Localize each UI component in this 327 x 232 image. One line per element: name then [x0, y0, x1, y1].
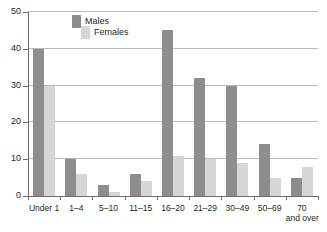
y-axis-label: 0 [0, 191, 21, 200]
plot-area [28, 12, 318, 196]
bar-males [194, 78, 205, 196]
x-axis-label-line: 21–29 [189, 203, 221, 213]
bar-females [173, 156, 184, 196]
x-axis-label: 30–49 [221, 203, 253, 213]
x-axis-tick [92, 196, 93, 200]
x-axis-label: 1–4 [60, 203, 92, 213]
x-axis-label-line: 50–69 [254, 203, 286, 213]
x-axis-tick [125, 196, 126, 200]
y-axis-tick [23, 49, 28, 50]
bar-males [226, 86, 237, 196]
bar-males [33, 49, 44, 196]
y-axis-tick [23, 86, 28, 87]
x-axis-label-line: 16–20 [157, 203, 189, 213]
x-axis-label: 5–10 [92, 203, 124, 213]
y-axis-label: 50 [0, 7, 21, 16]
x-axis-label-line: 30–49 [221, 203, 253, 213]
gridline [28, 85, 318, 86]
gridline [28, 48, 318, 49]
y-axis-line [28, 12, 29, 197]
x-axis-tick [286, 196, 287, 200]
bar-males [65, 159, 76, 196]
x-axis-tick [254, 196, 255, 200]
bar-males [130, 174, 141, 196]
y-axis-label: 20 [0, 117, 21, 126]
x-axis-label: 50–69 [254, 203, 286, 213]
x-axis-label-line: 11–15 [125, 203, 157, 213]
bar-females [205, 159, 216, 196]
bar-males [98, 185, 109, 196]
x-axis-label: 11–15 [125, 203, 157, 213]
y-axis-tick [23, 159, 28, 160]
gridline [28, 121, 318, 122]
bar-males [291, 178, 302, 196]
legend-label-males: Males [85, 16, 109, 26]
x-axis-tick [28, 196, 29, 200]
y-axis-tick [23, 12, 28, 13]
bar-females [76, 174, 87, 196]
bar-males [162, 30, 173, 196]
x-axis-tick [189, 196, 190, 200]
x-axis-label-line: 5–10 [92, 203, 124, 213]
x-axis-label: 21–29 [189, 203, 221, 213]
x-axis-tick [60, 196, 61, 200]
x-axis-label: 16–20 [157, 203, 189, 213]
bar-females [44, 86, 55, 196]
x-axis-tick [221, 196, 222, 200]
x-axis-label: 70and over [286, 203, 318, 223]
y-axis-label: 30 [0, 81, 21, 90]
legend-swatch-females-icon [81, 26, 90, 39]
x-axis-label-line: 1–4 [60, 203, 92, 213]
bar-females [237, 163, 248, 196]
legend-swatch-males-icon [72, 15, 81, 28]
x-axis-tick [157, 196, 158, 200]
bar-females [141, 181, 152, 196]
bar-chart: 01020304050 Under 11–45–1011–1516–2021–2… [0, 0, 327, 232]
x-axis-label-line: and over [286, 213, 318, 223]
x-axis-tick [318, 196, 319, 200]
y-axis-label: 10 [0, 154, 21, 163]
bar-females [302, 167, 313, 196]
gridline [28, 11, 318, 12]
bar-females [270, 178, 281, 196]
x-axis-label-line: Under 1 [28, 203, 60, 213]
bar-males [259, 144, 270, 196]
legend-item-females: Females [81, 26, 129, 38]
y-axis-label: 40 [0, 44, 21, 53]
x-axis-label-line: 70 [286, 203, 318, 213]
x-axis-label: Under 1 [28, 203, 60, 213]
y-axis-tick [23, 122, 28, 123]
x-axis-line [28, 196, 318, 197]
legend-label-females: Females [94, 27, 129, 37]
